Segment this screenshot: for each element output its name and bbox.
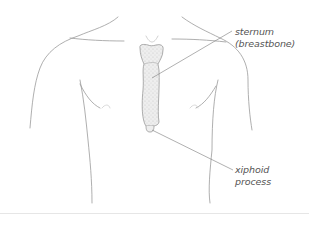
xiphoid-label: xiphoid process: [235, 164, 271, 188]
sternum-label-line1: sternum: [235, 26, 295, 38]
sternum-label: sternum (breastbone): [235, 26, 295, 50]
divider: [0, 213, 309, 214]
sternum-bone: [140, 44, 163, 132]
xiphoid-leader-line: [152, 130, 233, 170]
xiphoid-label-line1: xiphoid: [235, 164, 271, 176]
sternum-leader-line: [152, 31, 232, 78]
sternum-label-line2: (breastbone): [235, 38, 295, 50]
xiphoid-label-line2: process: [235, 176, 271, 188]
anatomy-diagram: sternum (breastbone) xiphoid process: [0, 0, 309, 226]
